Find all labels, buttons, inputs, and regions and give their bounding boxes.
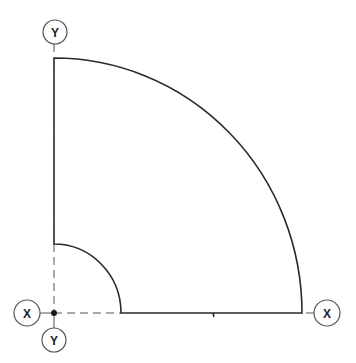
y-axis-top-bubble: Y (43, 20, 67, 44)
y-axis-top-label: Y (51, 26, 59, 40)
x-axis-right-bubble: X (314, 300, 340, 326)
x-axis-left-label: X (23, 307, 31, 321)
y-axis-bottom-bubble: Y (42, 328, 66, 352)
y-axis-bottom-label: Y (50, 334, 58, 348)
x-axis-right-label: X (323, 307, 331, 321)
quarter-ring-outline (54, 58, 302, 313)
bottom-edge-tick (213, 313, 214, 317)
origin-point (51, 310, 57, 316)
quarter-ring-diagram: Y X Y X (0, 0, 356, 363)
x-axis-left-bubble: X (14, 300, 40, 326)
